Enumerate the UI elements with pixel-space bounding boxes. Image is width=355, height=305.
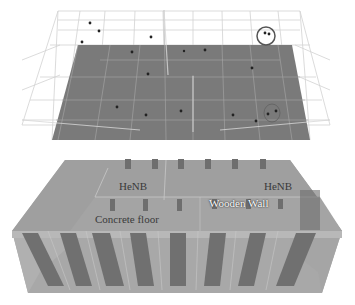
henb-label-left: HeNB — [119, 180, 147, 192]
bottom-building-model — [0, 0, 355, 305]
wooden-wall-label: Wooden Wall — [209, 197, 268, 209]
henb-label-right: HeNB — [264, 180, 292, 192]
concrete-floor-label: Concrete floor — [95, 213, 159, 225]
